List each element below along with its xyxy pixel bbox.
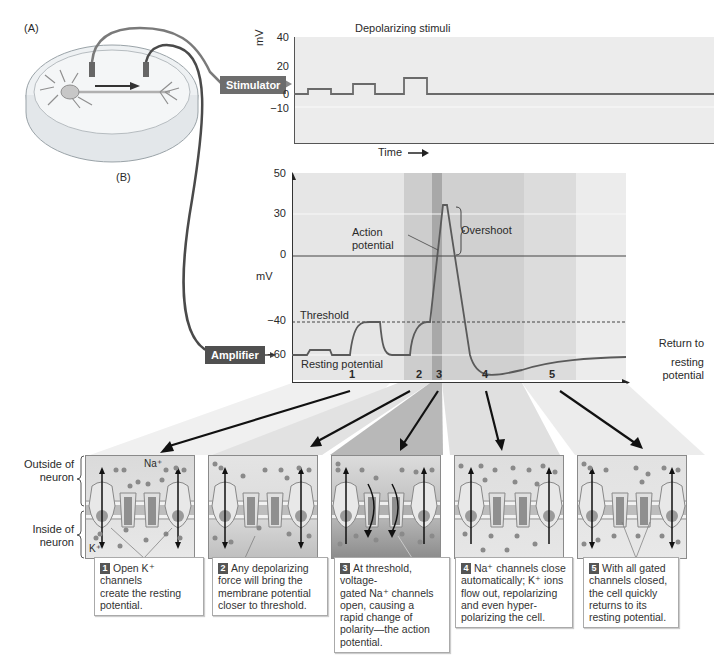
action-potential-label-line1: Action <box>352 226 394 239</box>
step-2-line-1: Any depolarizing <box>231 562 309 574</box>
stimuli-chart <box>294 37 714 145</box>
step-3-line-1: At threshold, voltage- <box>340 562 412 586</box>
membrane-panel-2 <box>208 455 318 559</box>
step-3-line-5: polarity—the action <box>340 623 430 635</box>
stimuli-tick-40: 40 <box>259 31 289 43</box>
step-number-5: 5 <box>589 563 599 574</box>
inside-label-line1: Inside of <box>24 523 74 536</box>
step-caption-3: 3At threshold, voltage- gated Na⁺ channe… <box>334 557 450 653</box>
threshold-label: Threshold <box>300 309 349 321</box>
membrane-panel-4 <box>454 455 564 559</box>
phase-1: 1 <box>349 368 355 380</box>
return-label-line1: Return to <box>640 337 704 350</box>
step-caption-2: 2Any depolarizing force will bring the m… <box>212 557 328 616</box>
step-5-line-4: returns to its <box>589 599 647 611</box>
step-number-3: 3 <box>340 563 350 574</box>
outside-label-line1: Outside of <box>24 458 74 471</box>
step-5-line-1: With all gated <box>602 562 666 574</box>
membrane-panel-3 <box>331 455 441 559</box>
step-caption-5: 5With all gated channels closed, the cel… <box>583 557 679 628</box>
phase-5: 5 <box>549 368 555 380</box>
step-3-line-4: rapid change of <box>340 611 412 623</box>
na-ion-label: Na⁺ <box>144 458 162 469</box>
step-caption-1: 1Open K⁺ channels create the resting pot… <box>94 557 204 616</box>
step-3-line-3: open, causing a <box>340 599 414 611</box>
stimuli-tick-0: 0 <box>259 88 289 100</box>
resting-potential-label: Resting potential <box>301 358 383 370</box>
phase-2: 2 <box>416 368 422 380</box>
step-5-line-3: the cell quickly <box>589 587 657 599</box>
inside-neuron-label: Inside of neuron <box>24 523 74 549</box>
step-4-line-4: and even hyper- <box>461 599 537 611</box>
outside-neuron-label: Outside of neuron <box>24 458 74 484</box>
step-1-line-3: potential. <box>100 599 143 611</box>
ap-tick-minus40: −40 <box>256 314 286 326</box>
step-5-line-2: channels closed, <box>589 574 667 586</box>
ap-tick-30: 30 <box>256 207 286 219</box>
ap-tick-minus60: −60 <box>256 348 286 360</box>
return-label-line2: resting <box>640 356 704 369</box>
step-4-line-1: Na⁺ channels close <box>474 562 566 574</box>
membrane-panel-1: Na⁺ K⁺ <box>85 455 195 559</box>
step-caption-4: 4Na⁺ channels close automatically; K⁺ io… <box>455 557 573 628</box>
stimuli-xlabel: Time <box>378 146 402 158</box>
projection-connectors <box>0 383 712 458</box>
stimuli-tick-20: 20 <box>259 60 289 72</box>
phase-4: 4 <box>482 368 488 380</box>
step-3-line-6: potential. <box>340 636 383 648</box>
step-2-line-3: membrane potential <box>218 587 311 599</box>
step-3-line-2: gated Na⁺ channels <box>340 587 434 599</box>
step-2-line-2: force will bring the <box>218 574 303 586</box>
ap-tick-0: 0 <box>256 248 286 260</box>
step-2-line-4: closer to threshold. <box>218 599 307 611</box>
time-arrow-icon <box>408 148 430 158</box>
step-4-line-2: automatically; K⁺ ions <box>461 574 563 586</box>
inside-label-line2: neuron <box>24 536 74 549</box>
overshoot-label: Overshoot <box>461 224 512 236</box>
step-1-line-2: create the resting <box>100 587 181 599</box>
step-5-line-5: resting potential. <box>589 611 666 623</box>
ap-ylabel: mV <box>256 270 273 282</box>
step-number-2: 2 <box>218 563 228 574</box>
ap-tick-50: 50 <box>256 167 286 179</box>
return-label-line3: potential <box>640 369 704 382</box>
membrane-panel-5 <box>577 455 687 559</box>
k-ion-label: K⁺ <box>89 543 101 554</box>
stimuli-tick-minus10: −10 <box>259 102 289 114</box>
outside-label-line2: neuron <box>24 471 74 484</box>
action-potential-label-line2: potential <box>352 239 394 252</box>
action-potential-label: Action potential <box>352 226 394 252</box>
step-4-line-5: polarizing the cell. <box>461 611 545 623</box>
phase-3: 3 <box>436 368 442 380</box>
step-number-1: 1 <box>100 563 110 574</box>
step-number-4: 4 <box>461 563 471 574</box>
step-4-line-3: flow out, repolarizing <box>461 587 557 599</box>
stimuli-chart-title: Depolarizing stimuli <box>355 22 450 34</box>
return-to-resting-label: Return to resting potential <box>640 337 704 382</box>
